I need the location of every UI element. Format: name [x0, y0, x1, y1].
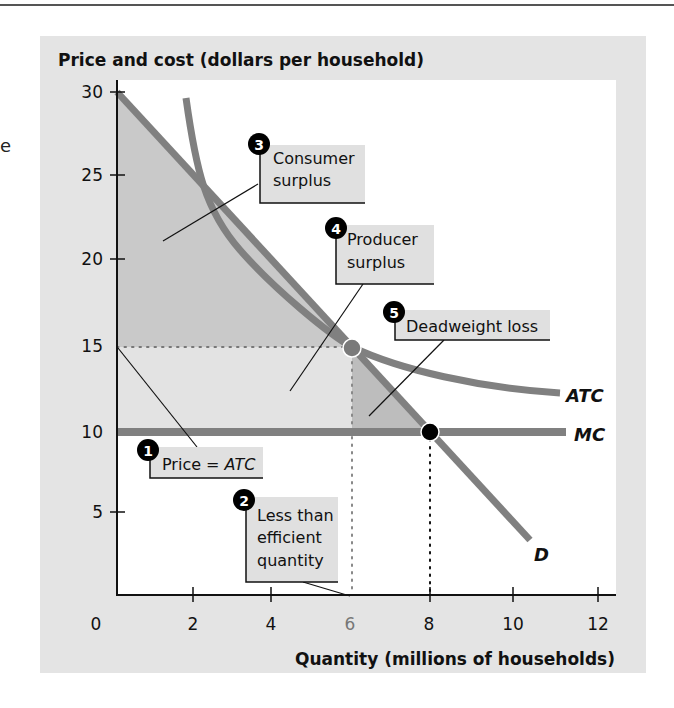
callout-less-than-efficient-quantity: 2 Less than efficient quantity — [233, 489, 350, 596]
svg-text:5: 5 — [389, 305, 399, 321]
mc-label: MC — [574, 424, 606, 445]
svg-text:3: 3 — [254, 137, 264, 153]
x-tick-8: 8 — [424, 614, 435, 634]
chart: 30 25 20 15 10 5 0 2 4 6 8 10 12 Price a… — [0, 0, 674, 708]
x-tick-10: 10 — [502, 614, 524, 634]
svg-text:quantity: quantity — [257, 551, 324, 570]
y-tick-20: 20 — [81, 249, 103, 269]
atc-label: ATC — [564, 385, 604, 406]
y-tick-15: 15 — [81, 336, 103, 356]
x-tick-2: 2 — [188, 614, 199, 634]
svg-text:1: 1 — [143, 443, 153, 459]
svg-text:Deadweight loss: Deadweight loss — [406, 317, 538, 336]
regulated-point — [343, 339, 361, 357]
svg-text:surplus: surplus — [347, 253, 405, 272]
efficient-point — [421, 423, 439, 441]
x-tick-6: 6 — [345, 614, 356, 634]
y-tick-25: 25 — [81, 165, 103, 185]
x-axis-title: Quantity (millions of households) — [295, 649, 615, 669]
y-axis-title: Price and cost (dollars per household) — [58, 50, 424, 70]
svg-text:efficient: efficient — [257, 528, 322, 547]
y-tick-30: 30 — [81, 82, 103, 102]
svg-text:surplus: surplus — [273, 171, 331, 190]
x-tick-4: 4 — [266, 614, 277, 634]
y-tick-5: 5 — [92, 502, 103, 522]
y-tick-10: 10 — [81, 422, 103, 442]
d-label: D — [534, 544, 549, 565]
svg-text:Producer: Producer — [347, 230, 418, 249]
x-tick-labels: 0 2 4 6 8 10 12 — [91, 614, 609, 634]
x-tick-0: 0 — [91, 614, 102, 634]
producer-surplus-region — [117, 347, 352, 432]
svg-text:4: 4 — [331, 221, 341, 237]
x-tick-12: 12 — [587, 614, 609, 634]
svg-text:Consumer: Consumer — [273, 149, 355, 168]
svg-text:Price = ATC: Price = ATC — [162, 455, 256, 474]
svg-text:Less than: Less than — [257, 506, 334, 525]
y-tick-labels: 30 25 20 15 10 5 — [81, 82, 103, 522]
svg-text:2: 2 — [239, 493, 249, 509]
